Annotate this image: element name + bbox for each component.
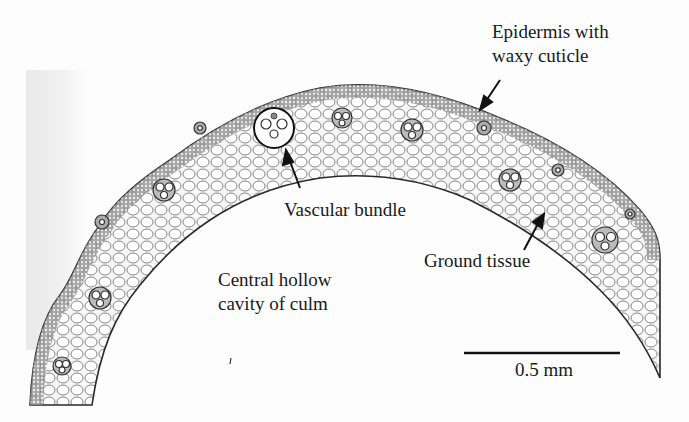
label-epidermis: Epidermis with waxy cuticle: [492, 20, 609, 68]
label-ground-tissue: Ground tissue: [424, 249, 530, 273]
culm-cross-section-figure: Epidermis with waxy cuticle Vascular bun…: [0, 0, 689, 422]
label-central-cavity: Central hollow cavity of culm: [218, 268, 331, 316]
label-vascular-bundle: Vascular bundle: [284, 198, 406, 222]
ground-tissue-region: [30, 85, 660, 405]
scale-bar-label: 0.5 mm: [515, 358, 573, 382]
highlighted-vascular-bundle: [254, 108, 294, 148]
